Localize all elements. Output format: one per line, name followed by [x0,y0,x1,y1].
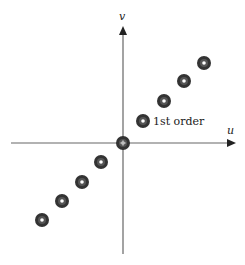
order-dot [35,213,49,227]
first-order-label: 1st order [153,115,205,128]
u-axis-arrow-icon [227,139,236,147]
order-dot [177,74,191,88]
order-dot [75,175,89,189]
order-dot [55,194,69,208]
v-axis-arrow-icon [119,26,127,35]
diffraction-order-diagram: v u 1st order [0,0,245,265]
zero-order-dot [116,136,130,150]
order-dot [157,94,171,108]
v-axis-label: v [119,10,126,23]
u-axis-label: u [227,124,234,137]
diagram-canvas: v u 1st order [0,0,245,265]
order-dot [94,155,108,169]
order-dot [136,114,150,128]
order-dot [197,56,211,70]
